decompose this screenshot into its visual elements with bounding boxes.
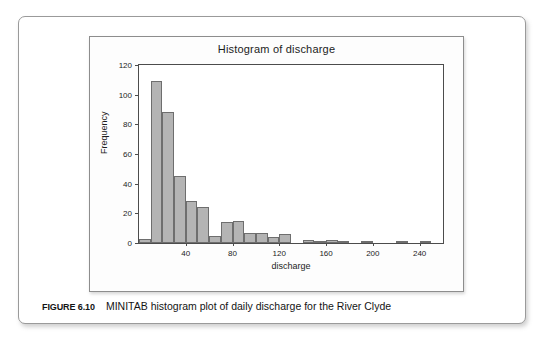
histogram-bar <box>186 201 198 243</box>
y-tick-label: 80 <box>90 120 132 129</box>
histogram-bar <box>151 81 163 243</box>
x-tick-label: 240 <box>413 249 426 258</box>
y-tick-label: 40 <box>90 179 132 188</box>
histogram-bar <box>256 233 268 243</box>
y-axis-title: Frequency <box>99 111 109 154</box>
histogram-bars <box>139 65 443 243</box>
histogram-bar <box>209 236 221 243</box>
y-tick-label: 60 <box>90 150 132 159</box>
histogram-bar <box>396 241 408 243</box>
y-tick-label: 20 <box>90 209 132 218</box>
histogram-bar <box>361 241 373 243</box>
figure-caption: FIGURE 6.10 MINITAB histogram plot of da… <box>42 300 391 312</box>
histogram-bar <box>279 234 291 243</box>
figure-caption-label: FIGURE 6.10 <box>42 302 95 312</box>
x-tick-label: 200 <box>366 249 379 258</box>
x-tick-label: 160 <box>319 249 332 258</box>
figure-caption-text: MINITAB histogram plot of daily discharg… <box>106 300 391 312</box>
histogram-bar <box>174 176 186 243</box>
histogram-bar <box>162 112 174 243</box>
figure-page: Histogram of discharge Frequency 0204060… <box>0 0 555 344</box>
histogram-bar <box>197 207 209 243</box>
histogram-bar <box>326 240 338 243</box>
histogram-bar <box>233 221 245 243</box>
histogram-bar <box>338 241 350 243</box>
figure-box: Histogram of discharge Frequency 0204060… <box>18 16 526 324</box>
x-tick-label: 40 <box>181 249 190 258</box>
chart-title: Histogram of discharge <box>90 43 463 55</box>
x-tick-label: 80 <box>228 249 237 258</box>
plot-area <box>138 64 444 244</box>
histogram-bar <box>268 237 280 243</box>
histogram-bar <box>420 241 432 243</box>
histogram-bar <box>244 233 256 243</box>
x-axis-title: discharge <box>138 261 444 271</box>
histogram-bar <box>303 240 315 243</box>
x-tick-label: 120 <box>273 249 286 258</box>
y-tick-label: 100 <box>90 90 132 99</box>
histogram-bar <box>221 222 233 243</box>
histogram-bar <box>314 241 326 243</box>
histogram-bar <box>139 239 151 243</box>
y-tick-label: 0 <box>90 239 132 248</box>
minitab-graph-window: Histogram of discharge Frequency 0204060… <box>89 36 464 292</box>
y-tick-label: 120 <box>90 61 132 70</box>
